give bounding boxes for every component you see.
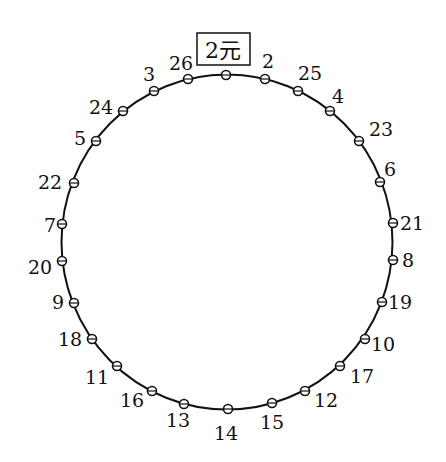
node-label: 25 bbox=[298, 62, 322, 84]
node-label: 14 bbox=[214, 422, 238, 444]
node-label: 10 bbox=[371, 333, 395, 355]
node-marker bbox=[70, 179, 79, 188]
node-group bbox=[58, 71, 398, 414]
node-marker bbox=[119, 107, 128, 116]
node-marker bbox=[389, 219, 398, 228]
node-label: 17 bbox=[350, 365, 374, 387]
node-label: 18 bbox=[58, 328, 82, 350]
node-label: 12 bbox=[314, 389, 338, 411]
node-marker bbox=[361, 335, 370, 344]
node-label: 13 bbox=[166, 409, 190, 431]
node-marker bbox=[58, 220, 67, 229]
node-marker bbox=[70, 299, 79, 308]
node-marker bbox=[294, 87, 303, 96]
node-label: 15 bbox=[260, 411, 284, 433]
node-marker bbox=[180, 400, 189, 409]
node-label: 3 bbox=[143, 63, 155, 85]
node-label: 6 bbox=[384, 158, 396, 180]
node-label: 24 bbox=[89, 96, 113, 118]
node-marker bbox=[148, 387, 157, 396]
node-marker bbox=[378, 298, 387, 307]
node-label: 7 bbox=[44, 214, 56, 236]
node-marker bbox=[224, 405, 233, 414]
circle-diagram: 2254236218191017121514131611189207225243… bbox=[0, 0, 446, 462]
node-marker bbox=[268, 399, 277, 408]
node-marker bbox=[301, 387, 310, 396]
node-marker bbox=[92, 137, 101, 146]
node-marker bbox=[261, 75, 270, 84]
top-label-text: 2元 bbox=[205, 38, 241, 63]
node-marker bbox=[58, 257, 67, 266]
label-group: 2254236218191017121514131611189207225243… bbox=[28, 50, 424, 444]
node-marker bbox=[326, 107, 335, 116]
node-label: 2 bbox=[262, 50, 274, 72]
node-marker bbox=[184, 75, 193, 84]
node-marker bbox=[355, 137, 364, 146]
node-label: 26 bbox=[169, 52, 193, 74]
node-label: 4 bbox=[332, 85, 344, 107]
node-label: 22 bbox=[38, 171, 62, 193]
node-label: 8 bbox=[402, 249, 414, 271]
top-label: 2元 bbox=[197, 33, 250, 65]
node-label: 23 bbox=[369, 118, 393, 140]
node-marker bbox=[389, 256, 398, 265]
node-marker bbox=[336, 362, 345, 371]
node-label: 5 bbox=[74, 127, 86, 149]
node-label: 21 bbox=[400, 212, 424, 234]
node-label: 19 bbox=[388, 291, 412, 313]
node-label: 16 bbox=[120, 389, 144, 411]
main-circle bbox=[62, 75, 393, 410]
node-marker bbox=[222, 71, 231, 80]
node-marker bbox=[113, 362, 122, 371]
node-marker bbox=[150, 87, 159, 96]
node-label: 20 bbox=[28, 256, 52, 278]
node-marker bbox=[88, 335, 97, 344]
node-label: 9 bbox=[52, 291, 64, 313]
node-label: 11 bbox=[85, 366, 109, 388]
